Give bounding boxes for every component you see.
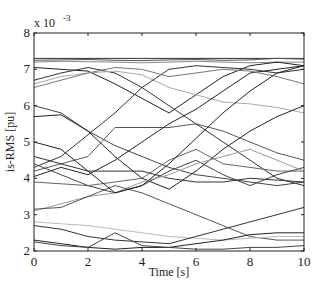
y-tick-label: 5 — [24, 134, 31, 149]
y-tick-label: 8 — [24, 25, 31, 40]
y-tick-label: 2 — [24, 243, 31, 258]
x-tick-label: 6 — [193, 254, 200, 269]
line-chart: 0246810 2345678 x 10 -3 Time [s] is-RMS … — [0, 0, 325, 293]
x-tick-label: 8 — [247, 254, 254, 269]
y-multiplier-exponent: -3 — [63, 13, 71, 23]
series-line — [34, 61, 304, 63]
x-tick-label: 4 — [139, 254, 146, 269]
series-line — [34, 233, 304, 249]
series-lines — [34, 58, 304, 249]
y-tick-label: 3 — [24, 207, 31, 222]
x-tick-label: 2 — [85, 254, 92, 269]
y-tick-label: 4 — [24, 170, 31, 185]
y-tick-label: 7 — [24, 61, 31, 76]
x-tick-label: 10 — [298, 254, 311, 269]
series-line — [34, 66, 304, 168]
x-tick-label: 0 — [31, 254, 38, 269]
series-line — [34, 186, 304, 241]
x-axis-label: Time [s] — [149, 265, 190, 279]
y-tick-label: 6 — [24, 98, 31, 113]
y-multiplier-label: x 10 — [34, 16, 55, 30]
series-line — [34, 71, 304, 113]
series-line — [34, 66, 304, 193]
series-line — [34, 160, 304, 193]
y-axis-label: is-RMS [pu] — [3, 112, 17, 172]
series-line — [34, 222, 304, 240]
